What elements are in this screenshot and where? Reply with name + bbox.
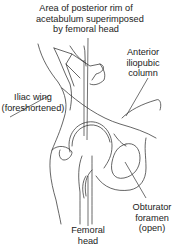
iliopubic-column — [122, 100, 161, 118]
iliac-spine-lines — [70, 46, 86, 66]
anterior-column-label-line-1: Anterior — [118, 47, 168, 58]
obturator-label-line-1: Obturator — [130, 202, 172, 213]
posterior-rim-label: Area of posterior rim of acetabulum supe… — [36, 3, 136, 35]
femoral-head-outline — [69, 122, 112, 168]
obturator-foramen-label: Obturator foramen (open) — [130, 202, 172, 234]
obturator-label-line-2: foramen — [130, 213, 172, 224]
femoral-head-label-line-1: Femoral — [70, 225, 106, 236]
posterior-rim-leader — [87, 38, 88, 140]
iliac-wing-label-line-2: (foreshortened) — [0, 103, 66, 114]
iliac-crest-lines — [54, 48, 103, 86]
iliac-wing-label-line-1: Iliac wing — [0, 92, 66, 103]
anterior-column-label-line-2: iliopubic — [118, 58, 168, 69]
anterior-column-contour — [62, 88, 156, 138]
posterior-rim-label-line-3: by femoral head — [36, 24, 136, 35]
obturator-foramen-outline — [112, 144, 141, 179]
obturator-leader — [125, 162, 146, 198]
femoral-head-label: Femoral head — [70, 225, 106, 244]
posterior-rim-label-line-2: acetabulum superimposed — [36, 14, 136, 25]
posterior-rim-label-line-1: Area of posterior rim of — [36, 3, 136, 14]
obturator-label-line-3: (open) — [130, 223, 172, 234]
femoral-neck — [79, 156, 82, 224]
femoral-head-label-line-2: head — [70, 236, 106, 244]
anterior-spine — [90, 64, 105, 85]
anterior-column-label: Anterior iliopubic column — [118, 47, 168, 79]
greater-trochanter — [52, 146, 72, 160]
lesser-trochanter — [83, 170, 92, 198]
iliac-wing-label: Iliac wing (foreshortened) — [0, 92, 66, 113]
anterior-column-leader — [126, 78, 148, 116]
acetabular-rim — [72, 125, 110, 146]
anterior-column-label-line-3: column — [118, 68, 168, 79]
iliac-wing-outline — [38, 44, 66, 224]
